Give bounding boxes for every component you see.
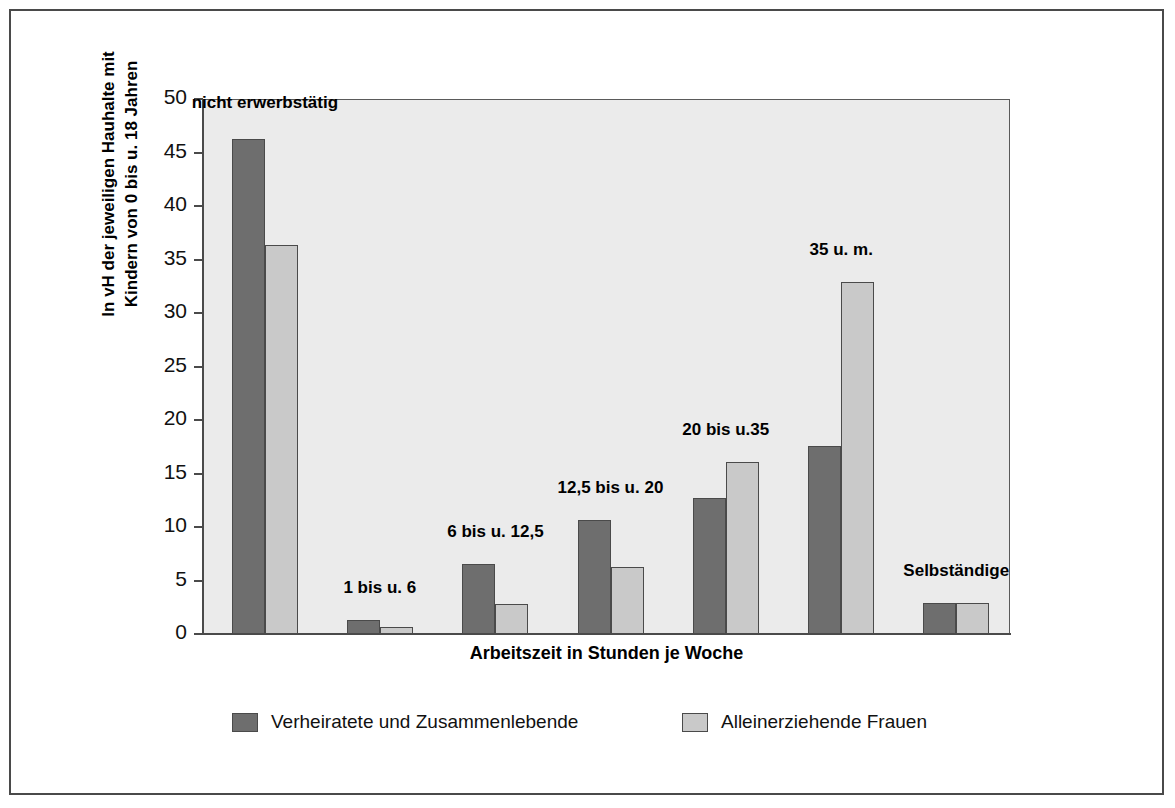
y-tick-label: 5 (131, 567, 187, 591)
group-label: Selbständige (903, 561, 1009, 581)
group-label: 20 bis u.35 (682, 420, 769, 440)
y-tick-mark (194, 259, 203, 261)
y-tick-mark (194, 205, 203, 207)
legend-label: Alleinerziehende Frauen (721, 711, 927, 733)
legend-label: Verheiratete und Zusammenlebende (271, 711, 578, 733)
bar (726, 462, 759, 634)
y-tick-label: 15 (131, 460, 187, 484)
bar (693, 498, 726, 634)
bar-chart: 05101520253035404550 nicht erwerbstätig1… (11, 11, 1166, 797)
y-tick-mark (194, 580, 203, 582)
y-tick-mark (194, 366, 203, 368)
y-tick-mark (194, 526, 203, 528)
bar (495, 604, 528, 634)
bar (380, 627, 413, 634)
legend-entry: Verheiratete und Zusammenlebende (232, 711, 578, 733)
y-tick-mark (194, 633, 203, 635)
figure-frame: 05101520253035404550 nicht erwerbstätig1… (9, 9, 1164, 795)
bar (578, 520, 611, 634)
bar (232, 139, 265, 634)
legend-swatch (232, 713, 258, 732)
bar (923, 603, 956, 634)
legend-swatch (682, 713, 708, 732)
bar (462, 564, 495, 634)
group-label: 1 bis u. 6 (343, 578, 416, 598)
group-label: 12,5 bis u. 20 (558, 478, 664, 498)
y-tick-label: 0 (131, 620, 187, 644)
group-label: 35 u. m. (810, 240, 873, 260)
y-axis-title-line-1: In vH der jeweiligen Hauhalte mit (98, 4, 121, 364)
chart-legend: Verheiratete und ZusammenlebendeAlleiner… (202, 711, 1011, 741)
bar (347, 620, 380, 634)
bar (841, 282, 874, 634)
y-tick-label: 20 (131, 406, 187, 430)
bar (611, 567, 644, 634)
x-axis-title: Arbeitszeit in Stunden je Woche (202, 643, 1011, 664)
y-tick-mark (194, 152, 203, 154)
y-tick-label: 10 (131, 513, 187, 537)
bar (808, 446, 841, 634)
y-tick-mark (194, 473, 203, 475)
y-axis-title: In vH der jeweiligen Hauhalte mit Kinder… (98, 4, 144, 364)
bar (265, 245, 298, 634)
y-axis-title-line-2: Kindern von 0 bis u. 18 Jahren (121, 4, 144, 364)
group-label: nicht erwerbstätig (192, 93, 338, 113)
y-tick-mark (194, 312, 203, 314)
group-label: 6 bis u. 12,5 (447, 522, 543, 542)
y-tick-mark (194, 419, 203, 421)
bar (956, 603, 989, 634)
legend-entry: Alleinerziehende Frauen (682, 711, 927, 733)
